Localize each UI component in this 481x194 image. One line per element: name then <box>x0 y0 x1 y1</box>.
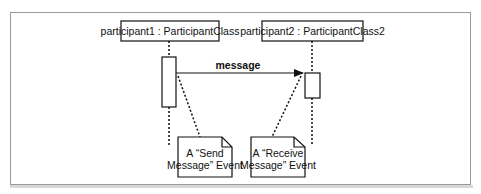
message-label: message <box>216 59 261 71</box>
note-send-line1: A “Send <box>186 147 224 159</box>
note-receive-message-event: A “Receive Message” Event <box>240 137 316 177</box>
activation-bar-2 <box>305 73 320 98</box>
note-send-line2: Message” Event <box>167 159 243 171</box>
note-connector-receive <box>272 76 301 137</box>
participant-2: participant2 : ParticipantClass2 <box>240 21 385 41</box>
note-connector-send <box>178 76 200 137</box>
participant-2-label: participant2 : ParticipantClass2 <box>240 25 385 37</box>
sequence-diagram: participant1 : ParticipantClass particip… <box>0 0 481 194</box>
note-send-message-event: A “Send Message” Event <box>167 137 243 177</box>
participant-1: participant1 : ParticipantClass <box>101 21 240 41</box>
participant-1-label: participant1 : ParticipantClass <box>101 25 240 37</box>
activation-bar-1 <box>162 57 176 107</box>
note-receive-line1: A “Receive <box>253 147 304 159</box>
note-receive-line2: Message” Event <box>240 159 316 171</box>
